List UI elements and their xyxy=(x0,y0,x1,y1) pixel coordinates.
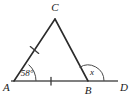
tick-mark-AC xyxy=(30,47,38,54)
vertex-label-D: D xyxy=(119,81,128,93)
figure-canvas: A B C D 58° x xyxy=(0,0,132,97)
vertex-label-C: C xyxy=(51,1,59,13)
segment-CB xyxy=(55,19,88,81)
geometry-figure: A B C D 58° x xyxy=(0,0,132,97)
vertex-label-A: A xyxy=(2,81,10,93)
angle-label-B: x xyxy=(89,67,94,77)
vertex-label-B: B xyxy=(85,84,92,96)
angle-label-A: 58° xyxy=(21,68,34,78)
